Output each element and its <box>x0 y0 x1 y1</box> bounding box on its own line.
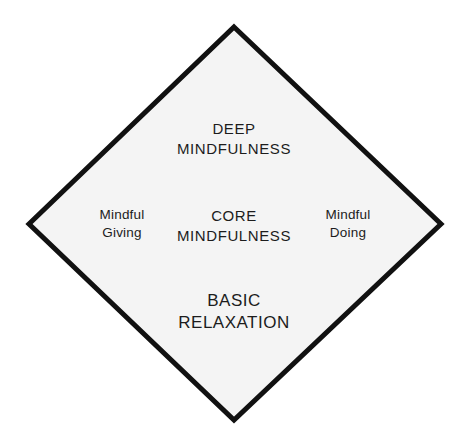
label-basic-relaxation-line-1: BASIC <box>0 290 468 312</box>
label-deep-mindfulness-line-2: MINDFULNESS <box>0 139 468 159</box>
label-basic-relaxation: BASIC RELAXATION <box>0 290 468 334</box>
label-mindful-doing-line-2: Doing <box>288 224 408 242</box>
label-deep-mindfulness: DEEP MINDFULNESS <box>0 119 468 158</box>
label-deep-mindfulness-line-1: DEEP <box>0 119 468 139</box>
label-mindful-doing-line-1: Mindful <box>288 206 408 224</box>
mindfulness-diamond-diagram: DEEP MINDFULNESS Mindful Giving CORE MIN… <box>0 0 468 447</box>
label-basic-relaxation-line-2: RELAXATION <box>0 312 468 334</box>
label-mindful-doing: Mindful Doing <box>288 206 408 241</box>
